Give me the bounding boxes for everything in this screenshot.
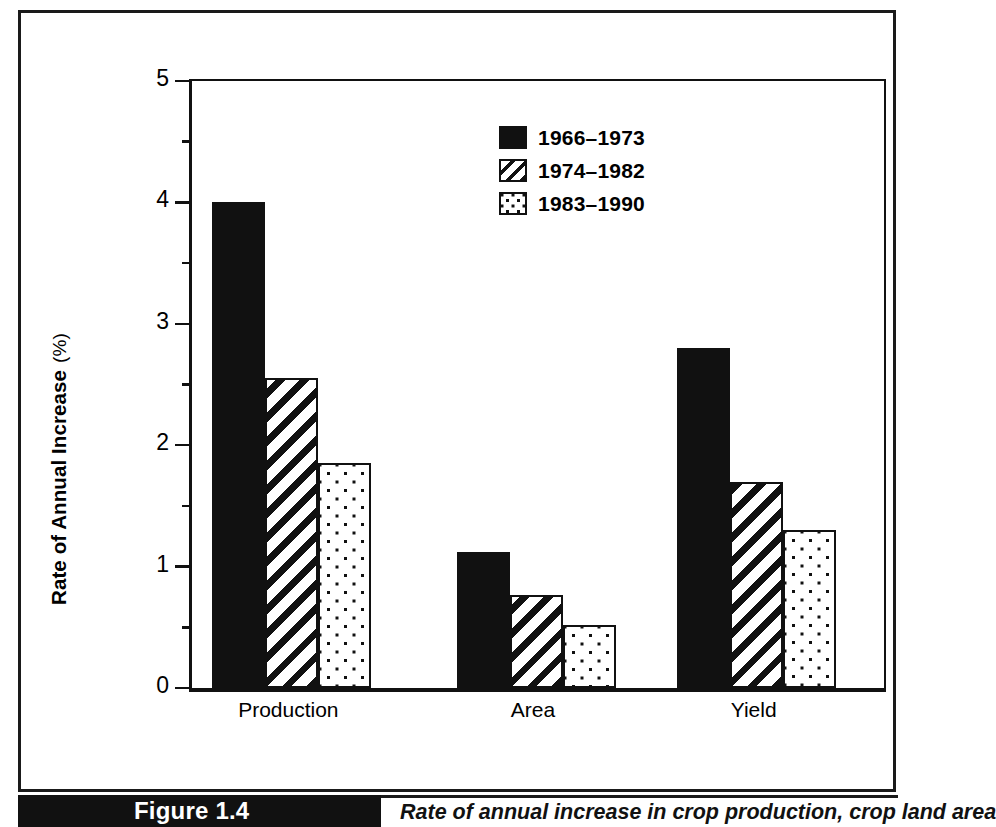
x-axis-label-yield: Yield (731, 699, 777, 720)
figure-frame: Rate of Annual Increase(%) 012345 Produc… (18, 10, 896, 792)
y-axis-unit-text: (%) (49, 333, 70, 370)
legend-label: 1966–1973 (538, 126, 645, 150)
y-axis-minor-tick (182, 262, 192, 265)
y-axis-major-tick (175, 444, 192, 447)
bar-yield-1966-1973 (677, 348, 730, 688)
figure-caption-text: Rate of annual increase in crop producti… (400, 800, 920, 825)
bar-area-1983-1990 (563, 625, 616, 688)
y-axis-major-tick (175, 565, 192, 568)
legend-label: 1974–1982 (538, 159, 645, 183)
y-axis-minor-tick (182, 505, 192, 508)
figure-caption-bar: Figure 1.4 Rate of annual increase in cr… (18, 795, 898, 827)
x-axis-label-production: Production (238, 699, 338, 720)
y-axis-tick-label: 2 (127, 431, 169, 454)
legend-label: 1983–1990 (538, 192, 645, 216)
legend-item-3: 1983–1990 (499, 189, 645, 218)
bar-area-1974-1982 (510, 595, 563, 688)
bar-production-1974-1982 (265, 378, 318, 688)
y-axis-tick-label: 5 (127, 67, 169, 90)
chart-legend: 1966–19731974–19821983–1990 (499, 123, 645, 222)
legend-item-1: 1966–1973 (499, 123, 645, 152)
y-axis-tick-label: 3 (127, 310, 169, 333)
bar-yield-1974-1982 (730, 482, 783, 688)
y-axis-minor-tick (182, 383, 192, 386)
x-axis-label-area: Area (511, 699, 555, 720)
bar-production-1983-1990 (318, 463, 371, 688)
y-axis-tick-label: 1 (127, 553, 169, 576)
y-axis-tick-labels: 012345 (117, 79, 169, 686)
y-axis-title-text: Rate of Annual Increase (47, 370, 70, 605)
bar-area-1966-1973 (457, 552, 510, 688)
figure-number-label: Figure 1.4 (134, 797, 249, 825)
y-axis-major-tick (175, 687, 192, 690)
caption-rule (381, 795, 898, 798)
legend-swatch-solid (499, 126, 527, 149)
bar-production-1966-1973 (212, 202, 265, 688)
y-axis-tick-label: 4 (127, 188, 169, 211)
y-axis-major-tick (175, 80, 192, 83)
y-axis-title: Rate of Annual Increase(%) (47, 333, 71, 605)
y-axis-tick-label: 0 (127, 674, 169, 697)
x-axis-category-labels: ProductionAreaYield (189, 699, 881, 733)
legend-swatch-dots (499, 192, 527, 215)
y-axis-minor-tick (182, 140, 192, 143)
legend-item-2: 1974–1982 (499, 156, 645, 185)
figure-number-box: Figure 1.4 (18, 795, 381, 827)
legend-swatch-hatch (499, 159, 527, 182)
y-axis-major-tick (175, 323, 192, 326)
y-axis-minor-tick (182, 626, 192, 629)
y-axis-major-tick (175, 201, 192, 204)
bar-yield-1983-1990 (783, 530, 836, 688)
